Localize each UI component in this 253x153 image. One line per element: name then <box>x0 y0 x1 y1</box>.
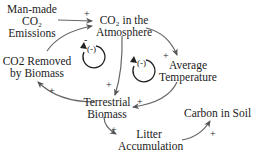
node-co2-removed: CO2 Removed by Biomass <box>2 55 72 79</box>
node-label: Carbon in Soil <box>184 107 250 119</box>
node-co2-atmosphere: CO₂ in the Atmosphere <box>94 14 154 38</box>
sign-temperature-biomass: + <box>137 97 143 107</box>
sign-co2-temperature: + <box>163 51 169 61</box>
node-label: CO₂ <box>6 15 58 27</box>
node-label: Biomass <box>83 108 131 120</box>
node-label: Atmosphere <box>94 26 154 38</box>
sign-biomass-litter: + <box>111 125 117 135</box>
node-label: CO₂ in the <box>94 14 154 26</box>
arrow-co2-to-biomass <box>115 36 122 95</box>
node-label: Emissions <box>6 27 58 39</box>
sign-co2-biomass: + <box>106 80 112 90</box>
node-label: by Biomass <box>2 67 72 79</box>
node-litter-accumulation: Litter Accumulation <box>118 128 180 152</box>
node-terrestrial-biomass: Terrestrial Biomass <box>83 96 131 120</box>
node-label: CO2 Removed <box>2 55 72 67</box>
arrow-emissions-to-co2 <box>58 20 92 21</box>
node-label: Litter <box>118 128 180 140</box>
node-temperature: Average Temperature <box>155 59 221 83</box>
sign-litter-soil: + <box>210 129 216 139</box>
node-label: Accumulation <box>118 140 180 152</box>
node-carbon-in-soil: Carbon in Soil <box>184 107 250 119</box>
node-label: Man-made <box>6 3 58 15</box>
arrow-litter-to-soil <box>182 121 210 140</box>
sign-emissions-co2: + <box>84 9 90 19</box>
loop-right-label: (-) <box>137 59 146 68</box>
sign-biomass-removed: + <box>49 86 55 96</box>
loop-left-label: (-) <box>87 45 96 54</box>
node-label: Terrestrial <box>83 96 131 108</box>
node-label: Temperature <box>155 71 221 83</box>
node-emissions: Man-made CO₂ Emissions <box>6 3 58 39</box>
